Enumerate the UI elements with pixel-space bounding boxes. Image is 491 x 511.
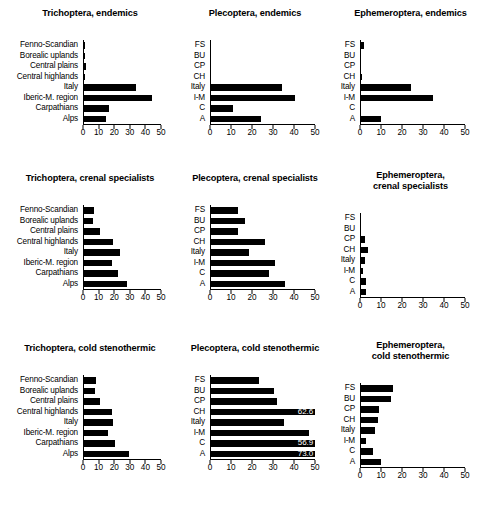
bars-region bbox=[360, 213, 465, 297]
y-axis-tick bbox=[210, 237, 211, 238]
bar bbox=[84, 398, 100, 405]
y-axis-tick bbox=[83, 438, 84, 439]
bar bbox=[361, 385, 393, 392]
y-axis-tick-label: Borealic uplands bbox=[0, 51, 83, 62]
bar bbox=[84, 281, 127, 288]
bar bbox=[211, 95, 295, 102]
bar-row bbox=[361, 266, 465, 277]
bar bbox=[361, 417, 378, 424]
bar-row bbox=[211, 237, 315, 248]
y-axis-tick bbox=[360, 51, 361, 52]
bar-row bbox=[361, 245, 465, 256]
bar-row bbox=[211, 279, 315, 290]
y-axis-tick bbox=[83, 279, 84, 280]
bar bbox=[361, 438, 366, 445]
bar-row bbox=[84, 396, 161, 407]
y-axis-tick-label: C bbox=[330, 446, 360, 457]
y-axis-tick-label: I-M bbox=[180, 258, 210, 269]
y-axis-tick bbox=[83, 428, 84, 429]
y-axis-labels: FSBUCPCHItalyI-MCA bbox=[330, 213, 360, 297]
x-axis bbox=[360, 297, 465, 298]
y-axis-tick-label: Alps bbox=[0, 449, 83, 460]
y-axis-tick-label: Fenno-Scandian bbox=[0, 205, 83, 216]
y-axis-tick bbox=[83, 72, 84, 73]
y-axis-tick bbox=[83, 449, 84, 450]
y-axis-tick bbox=[360, 234, 361, 235]
bar-row bbox=[361, 425, 465, 436]
y-axis-tick bbox=[360, 93, 361, 94]
bar-row bbox=[84, 438, 161, 449]
x-axis-tick-label: 50 bbox=[156, 294, 165, 302]
bar bbox=[84, 116, 106, 123]
bar-row bbox=[84, 72, 161, 83]
x-axis-tick-label: 50 bbox=[460, 472, 469, 480]
panel-title: Plecoptera, endemics bbox=[180, 8, 330, 19]
bar-row bbox=[211, 103, 315, 114]
bar-row bbox=[84, 279, 161, 290]
x-axis-tick-label: 30 bbox=[418, 472, 427, 480]
y-axis-tick bbox=[360, 436, 361, 437]
bar-rows bbox=[84, 205, 161, 289]
y-axis-labels: FSBUCPCHItalyI-MCA bbox=[330, 383, 360, 467]
bar-rows bbox=[361, 383, 465, 467]
y-axis-tick-label: A bbox=[180, 114, 210, 125]
bar-row bbox=[361, 72, 465, 83]
bar-rows bbox=[211, 40, 315, 124]
x-axis-tick-label: 50 bbox=[460, 302, 469, 310]
bar-row bbox=[361, 383, 465, 394]
x-axis bbox=[83, 459, 161, 460]
y-axis-tick bbox=[83, 247, 84, 248]
x-axis bbox=[210, 289, 315, 290]
bar bbox=[361, 289, 366, 296]
bar-row bbox=[361, 287, 465, 298]
bar-row bbox=[211, 61, 315, 72]
y-axis-tick-label: A bbox=[330, 114, 360, 125]
panel-plecoptera-endemics: Plecoptera, endemics FSBUCPCHItalyI-MCA0… bbox=[180, 0, 330, 165]
x-axis-tick-label: 10 bbox=[376, 302, 385, 310]
x-axis-tick-label: 30 bbox=[268, 294, 277, 302]
bar bbox=[361, 247, 368, 254]
panel-title: Plecoptera, cold stenothermic bbox=[180, 343, 330, 354]
panel-title: Ephemeroptera, crenal specialists bbox=[330, 170, 491, 192]
bar bbox=[84, 377, 96, 384]
bar-row bbox=[84, 82, 161, 93]
y-axis-labels: FSBUCPCHItalyI-MCA bbox=[180, 375, 210, 459]
bar-row bbox=[361, 40, 465, 51]
y-axis-tick-label: Central plains bbox=[0, 226, 83, 237]
bar bbox=[361, 459, 381, 466]
x-axis-tick-label: 30 bbox=[125, 464, 134, 472]
bar-row bbox=[84, 103, 161, 114]
bar-row bbox=[84, 237, 161, 248]
bar-row bbox=[361, 51, 465, 62]
y-axis-tick-label: Central plains bbox=[0, 61, 83, 72]
y-axis-tick-label: Italy bbox=[330, 425, 360, 436]
y-axis-tick-label: Alps bbox=[0, 279, 83, 290]
bar-row bbox=[84, 40, 161, 51]
bar bbox=[361, 42, 364, 49]
x-axis-tick-label: 20 bbox=[397, 472, 406, 480]
bar-row bbox=[211, 375, 315, 386]
bar-row bbox=[211, 82, 315, 93]
bar-row bbox=[361, 457, 465, 468]
y-axis-tick-label: C bbox=[330, 276, 360, 287]
x-axis-tick-label: 40 bbox=[439, 129, 448, 137]
bar-rows bbox=[361, 213, 465, 297]
y-axis-tick bbox=[210, 114, 211, 115]
y-axis-tick-label: Italy bbox=[330, 255, 360, 266]
x-axis-tick-label: 20 bbox=[397, 129, 406, 137]
bar bbox=[84, 218, 93, 225]
y-axis-tick-label: Italy bbox=[330, 82, 360, 93]
y-axis-tick-label: C bbox=[180, 103, 210, 114]
y-axis-tick bbox=[210, 407, 211, 408]
x-axis-tick-label: 10 bbox=[376, 129, 385, 137]
y-axis-tick-label: Borealic uplands bbox=[0, 216, 83, 227]
y-axis-tick bbox=[83, 114, 84, 115]
y-axis-tick bbox=[360, 287, 361, 288]
bar-value-label: 62.6 bbox=[298, 408, 313, 416]
bar-row bbox=[361, 255, 465, 266]
y-axis-tick bbox=[210, 216, 211, 217]
x-axis-tick-label: 10 bbox=[94, 129, 103, 137]
bar-row bbox=[361, 82, 465, 93]
bar bbox=[84, 105, 109, 112]
bar-row bbox=[211, 93, 315, 104]
